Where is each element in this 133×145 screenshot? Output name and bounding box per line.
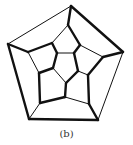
graph-edge-M6-M7-hamiltonian	[39, 73, 40, 103]
graph-edge-M7-I4-hamiltonian	[39, 68, 53, 73]
graph-edge-I4-I0-hamiltonian	[53, 53, 57, 68]
graph-edge-O2-M4-hamiltonian	[89, 104, 98, 120]
graph-edge-M1-M2	[80, 45, 103, 57]
dodecahedron-graph	[0, 0, 133, 125]
graph-edge-I3-I4	[53, 68, 66, 83]
graph-edge-I2-I3-hamiltonian	[66, 71, 78, 83]
graph-edge-M0-M1-hamiltonian	[68, 25, 80, 45]
graph-edge-M7-M8	[28, 52, 39, 73]
figure-caption: (b)	[0, 128, 133, 139]
graph-edge-O1-O2	[98, 52, 123, 120]
graph-edge-M3-I2	[78, 71, 88, 75]
graph-edge-O3-M6	[29, 103, 40, 119]
graph-edge-M5-I3-hamiltonian	[65, 83, 66, 97]
graph-edge-I1-I2-hamiltonian	[74, 53, 78, 71]
graph-edge-M9-I0-hamiltonian	[52, 43, 57, 53]
graph-edge-M3-M4-hamiltonian	[88, 75, 89, 104]
graph-edge-M8-M9-hamiltonian	[28, 43, 52, 52]
graph-edge-M9-M0	[52, 25, 68, 43]
graph-edge-M2-M3-hamiltonian	[88, 57, 103, 75]
graph-edge-O0-M0-hamiltonian	[68, 6, 71, 25]
graph-edge-M5-M6-hamiltonian	[40, 97, 65, 103]
graph-edge-O2-O3-hamiltonian	[29, 119, 98, 120]
graph-edge-O3-O4-hamiltonian	[8, 44, 29, 119]
graph-edge-O1-M2-hamiltonian	[103, 52, 123, 57]
graph-edge-M1-I1-hamiltonian	[74, 45, 80, 53]
graph-edge-O4-O0	[8, 6, 71, 44]
graph-edge-M4-M5	[65, 97, 89, 104]
